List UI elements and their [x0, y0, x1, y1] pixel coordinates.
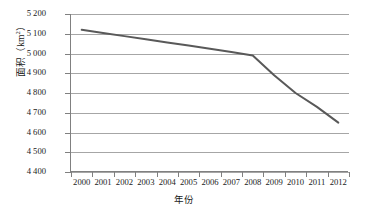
y-axis-tick-label: 4 600: [6, 128, 46, 137]
x-axis-tick: [114, 172, 115, 177]
x-axis-tick: [263, 172, 264, 177]
y-axis-tick-label: 4 800: [6, 88, 46, 97]
y-axis-tick-label: 4 700: [6, 108, 46, 117]
y-axis-tick-label: 4 900: [6, 68, 46, 77]
x-axis-tick: [328, 172, 329, 177]
data-series-group: [71, 14, 349, 172]
x-axis-tick: [221, 172, 222, 177]
y-axis-tick-label: 4 400: [6, 167, 46, 176]
x-axis-tick: [199, 172, 200, 177]
y-axis-tick-label: 5 100: [6, 29, 46, 38]
x-axis-tick: [157, 172, 158, 177]
x-axis-tick: [285, 172, 286, 177]
x-axis-title: 年份: [0, 192, 367, 206]
x-axis-tick: [349, 172, 350, 177]
y-axis-tick-label: 4 500: [6, 147, 46, 156]
data-line-area: [82, 30, 339, 123]
x-axis-tick: [71, 172, 72, 177]
x-axis-tick: [135, 172, 136, 177]
y-axis-tick-label: 5 000: [6, 49, 46, 58]
x-axis-tick-label: 2012: [318, 178, 358, 187]
x-axis-tick: [92, 172, 93, 177]
x-axis-tick: [242, 172, 243, 177]
x-axis-tick: [306, 172, 307, 177]
gridline: [71, 172, 349, 173]
plot-area: 4 4004 5004 6004 7004 8004 9005 0005 100…: [70, 14, 348, 172]
y-axis-tick-label: 5 200: [6, 9, 46, 18]
x-axis-tick: [178, 172, 179, 177]
line-chart-figure: 面积（km2） 年份 4 4004 5004 6004 7004 8004 90…: [0, 0, 367, 216]
